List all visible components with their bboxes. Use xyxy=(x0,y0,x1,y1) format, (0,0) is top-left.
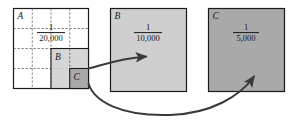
panel-a-label: A xyxy=(17,11,24,21)
panel-c-background xyxy=(209,9,285,92)
panel-c-scale-denominator: 5,000 xyxy=(236,33,255,43)
panel-b-group: B 1 10,000 xyxy=(111,9,187,92)
panel-b-background xyxy=(111,9,187,92)
panel-c-group: C 1 5,000 xyxy=(209,9,285,92)
panel-a-scale-denominator: 20,000 xyxy=(39,33,62,43)
inset-b-label: B xyxy=(55,52,61,62)
panel-a-group: A B C 1 20,000 xyxy=(14,9,89,89)
panel-c-scale-numerator: 1 xyxy=(244,22,248,32)
panel-b-scale-denominator: 10,000 xyxy=(136,33,159,43)
inset-c-label: C xyxy=(74,72,81,82)
scale-diagram-figure: A B C 1 20,000 B 1 10,000 C 1 xyxy=(0,0,292,121)
panel-a-scale-numerator: 1 xyxy=(49,22,53,32)
diagram-canvas: A B C 1 20,000 B 1 10,000 C 1 xyxy=(0,0,292,121)
panel-c-label: C xyxy=(213,11,220,21)
panel-b-label: B xyxy=(115,11,121,21)
panel-b-scale-numerator: 1 xyxy=(146,22,150,32)
